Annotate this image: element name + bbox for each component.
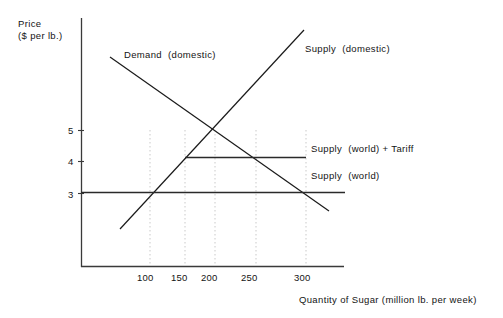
x-tick-label-250: 250 [241,272,257,284]
x-tick-label-100: 100 [137,272,153,284]
x-tick-label-200: 200 [201,272,217,284]
demand-domestic-curve [110,57,329,211]
gridlines [150,130,306,266]
demand-domestic-label: Demand (domestic) [124,49,216,61]
y-axis-title-line2: ($ per lb.) [18,30,63,41]
supply-world-tariff-label: Supply (world) + Tariff [311,143,414,155]
y-axis-title-line1: Price [18,18,41,29]
chart-canvas [0,0,503,318]
x-tick-label-150: 150 [171,272,187,284]
x-tick-label-300: 300 [294,272,310,284]
y-tick-label-3: 3 [68,189,73,201]
x-axis-title: Quantity of Sugar (million lb. per week) [299,294,477,306]
y-tick-label-4: 4 [68,156,73,168]
sugar-tariff-chart: Price($ per lb.) Quantity of Sugar (mill… [0,0,503,318]
y-tick-label-5: 5 [68,125,73,137]
supply-domestic-label: Supply (domestic) [305,43,390,55]
y-axis-title: Price($ per lb.) [18,18,63,42]
supply-world-label: Supply (world) [311,170,380,182]
